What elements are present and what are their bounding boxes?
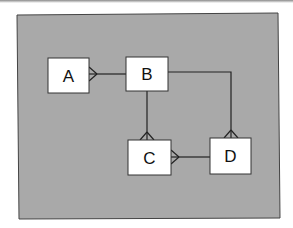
entity-b[interactable]: B [126, 57, 168, 91]
entity-a-label: A [63, 67, 75, 86]
entity-b-label: B [141, 65, 152, 84]
entity-c[interactable]: C [128, 140, 171, 175]
entity-d[interactable]: D [210, 138, 251, 174]
entity-a[interactable]: A [48, 58, 89, 93]
diagram-panel [17, 13, 280, 219]
entity-c-label: C [143, 149, 155, 168]
entity-d-label: D [224, 147, 236, 166]
er-diagram: A B C D [0, 0, 293, 228]
